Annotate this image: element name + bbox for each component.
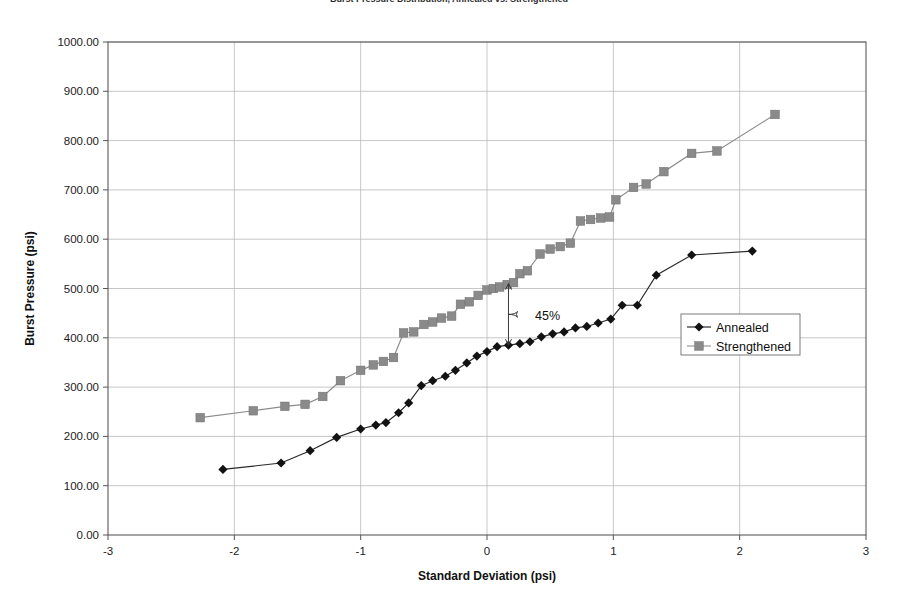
data-point-marker [559, 327, 568, 336]
data-point-marker [548, 329, 557, 338]
y-tick-label: 1000.00 [57, 36, 99, 48]
data-point-marker [356, 366, 365, 375]
x-tick-label: -3 [103, 545, 113, 557]
data-point-marker [441, 372, 450, 381]
data-point-marker [537, 332, 546, 341]
data-point-marker [399, 329, 408, 338]
y-axis-title: Burst Pressure (psi) [23, 231, 37, 346]
y-tick-label: 400.00 [64, 332, 99, 344]
data-point-marker [276, 458, 285, 467]
data-point-marker [509, 278, 518, 287]
data-point-marker [301, 400, 310, 409]
data-point-marker [451, 366, 460, 375]
data-point-marker [447, 312, 456, 321]
data-point-marker [523, 266, 532, 275]
data-point-marker [660, 167, 669, 176]
data-point-marker [306, 446, 315, 455]
x-tick-label: 0 [484, 545, 490, 557]
series-group [196, 110, 779, 474]
data-point-marker [379, 357, 388, 366]
data-point-marker [586, 215, 595, 224]
data-point-marker [249, 406, 258, 415]
data-point-marker [596, 214, 605, 223]
data-point-marker [417, 381, 426, 390]
x-tick-label: 1 [610, 545, 616, 557]
data-point-marker [687, 149, 696, 158]
chart-title: Burst Pressure Distribution, Annealed vs… [0, 0, 898, 5]
x-tick-label: -2 [229, 545, 239, 557]
y-tick-label: 100.00 [64, 480, 99, 492]
data-point-marker [642, 180, 651, 189]
data-point-marker [281, 402, 290, 411]
y-tick-label: 500.00 [64, 283, 99, 295]
data-point-marker [482, 347, 491, 356]
y-tick-label: 300.00 [64, 381, 99, 393]
data-point-marker [566, 239, 575, 248]
data-point-marker [437, 314, 446, 323]
data-point-marker [218, 465, 227, 474]
data-point-marker [493, 342, 502, 351]
data-point-marker [472, 351, 481, 360]
data-point-marker [318, 392, 327, 401]
legend-marker [695, 342, 704, 351]
x-tick-label: -1 [356, 545, 366, 557]
data-point-marker [556, 242, 565, 251]
x-axis-title: Standard Deviation (psi) [418, 569, 556, 583]
data-point-marker [516, 269, 525, 278]
x-tick-label: 3 [863, 545, 869, 557]
chart-figure: Burst Pressure Distribution, Annealed vs… [0, 0, 898, 608]
data-point-marker [196, 413, 205, 422]
data-point-marker [456, 300, 465, 309]
series-annealed [218, 246, 757, 474]
y-tick-label: 700.00 [64, 184, 99, 196]
y-tick-label: 800.00 [64, 135, 99, 147]
data-point-marker [771, 110, 780, 119]
data-point-marker [336, 376, 345, 385]
data-point-marker [612, 195, 621, 204]
data-point-marker [371, 420, 380, 429]
data-point-marker [332, 433, 341, 442]
data-point-marker [687, 250, 696, 259]
legend-label: Strengthened [716, 340, 791, 354]
data-point-marker [748, 246, 757, 255]
data-point-marker [546, 245, 555, 254]
x-tick-label: 2 [736, 545, 742, 557]
data-point-marker [576, 217, 585, 226]
data-point-marker [495, 283, 504, 292]
data-point-marker [409, 328, 418, 337]
chart-svg: 0.00100.00200.00300.00400.00500.00600.00… [0, 0, 898, 608]
data-point-marker [356, 424, 365, 433]
series-strengthened [196, 110, 779, 422]
legend-label: Annealed [716, 321, 769, 335]
data-point-marker [571, 323, 580, 332]
data-point-marker [465, 298, 474, 307]
data-point-marker [420, 320, 429, 329]
annotation-label: 45% [535, 309, 560, 323]
data-point-marker [428, 318, 437, 327]
axes-group: 0.00100.00200.00300.00400.00500.00600.00… [57, 36, 869, 557]
data-point-marker [462, 358, 471, 367]
data-point-marker [629, 183, 638, 192]
data-point-marker [474, 291, 483, 300]
data-point-marker [515, 339, 524, 348]
y-tick-label: 200.00 [64, 430, 99, 442]
data-point-marker [605, 213, 614, 222]
annotation-pointer [508, 311, 517, 317]
y-tick-label: 900.00 [64, 85, 99, 97]
legend: AnnealedStrengthened [681, 314, 800, 355]
data-point-marker [389, 353, 398, 362]
data-point-marker [652, 271, 661, 280]
data-point-marker [428, 376, 437, 385]
y-tick-label: 0.00 [77, 529, 99, 541]
data-point-marker [369, 361, 378, 370]
data-point-marker [594, 318, 603, 327]
series-line [200, 114, 775, 417]
data-point-marker [713, 147, 722, 156]
data-point-marker [582, 322, 591, 331]
data-point-marker [525, 337, 534, 346]
y-tick-label: 600.00 [64, 233, 99, 245]
data-point-marker [536, 250, 545, 259]
data-point-marker [633, 301, 642, 310]
